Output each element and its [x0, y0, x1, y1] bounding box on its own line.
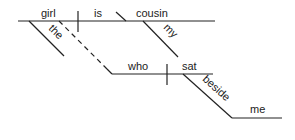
relative-clause-connector-tail — [107, 69, 112, 74]
word-who: who — [127, 60, 148, 72]
sentence-diagram: girl is cousin the my who sat beside me — [0, 0, 295, 140]
diagram-canvas: girl is cousin the my who sat beside me — [0, 0, 295, 140]
word-me: me — [250, 103, 265, 115]
word-the: the — [47, 22, 66, 41]
word-is: is — [94, 7, 102, 19]
word-beside: beside — [201, 73, 233, 104]
relative-clause-connector — [59, 21, 107, 69]
complement-slash — [116, 12, 126, 21]
word-my: my — [162, 21, 181, 40]
word-cousin: cousin — [136, 7, 168, 19]
word-sat: sat — [182, 60, 197, 72]
word-girl: girl — [41, 7, 56, 19]
